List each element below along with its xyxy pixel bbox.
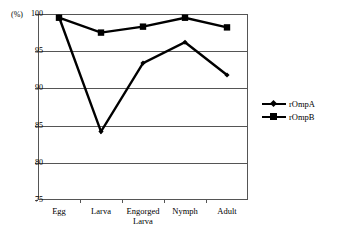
y-tick-label: 95 [19,47,43,55]
plot-area [38,14,248,200]
x-tick-label: Larva [91,206,111,216]
y-tick-label: 80 [19,159,43,167]
legend-label-series-1: rOmpB [286,112,315,122]
legend-item-series-0: rOmpA [262,97,336,110]
y-tick-label: 100 [19,10,43,18]
legend-marker-square-icon [262,111,286,123]
x-tick-label: EngorgedLarva [127,206,160,226]
legend-item-series-1: rOmpB [262,110,336,123]
x-tick-label: Adult [217,206,236,216]
x-tick-label: Nymph [172,206,198,216]
legend-label-series-0: rOmpA [286,99,315,109]
y-tick-label: 75 [19,196,43,204]
chart-figure: (%) 1009590858075 EggLarvaEngorgedLarvaN… [0,0,337,240]
y-tick-label: 85 [19,122,43,130]
x-tick-label: Egg [52,206,66,216]
y-tick-label: 90 [19,84,43,92]
x-tick-marks-group [81,200,207,203]
legend-marker-diamond-icon [262,98,286,110]
chart-legend: rOmpA rOmpB [262,97,336,123]
